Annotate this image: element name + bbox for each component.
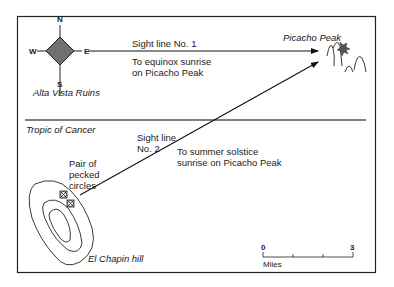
sight-line-1-label: Sight line No. 1 <box>132 38 196 49</box>
tropic-of-cancer-label: Tropic of Cancer <box>26 124 96 135</box>
scale-unit-label: Miles <box>263 259 282 270</box>
pecked-circle-2-icon <box>67 200 74 207</box>
pecked-circles-label-1: Pair of <box>69 158 96 169</box>
pecked-circles-label-3: circles <box>69 180 96 191</box>
alta-vista-ruins-label: Alta Vista Ruins <box>33 87 100 98</box>
map-diagram <box>0 0 394 287</box>
compass-north-label: N <box>57 14 63 25</box>
sight-line-1-desc-1: To equinox sunrise <box>132 56 211 67</box>
pecked-circle-1-icon <box>60 191 67 198</box>
sight-line-2-desc-2: sunrise on Picacho Peak <box>177 157 282 168</box>
scale-end-label: 3 <box>350 242 354 253</box>
pecked-circles-label-2: pecked <box>69 169 100 180</box>
sight-line-2-desc-1: To summer solstice <box>177 146 258 157</box>
compass-west-label: W <box>29 46 37 57</box>
sight-line-2-label-1: Sight line <box>137 132 176 143</box>
picacho-peak-label: Picacho Peak <box>283 32 341 43</box>
picacho-peak-mountains-icon <box>327 42 366 72</box>
sight-line-1-desc-2: on Picacho Peak <box>132 67 203 78</box>
map-frame <box>18 17 376 273</box>
compass-east-label: E <box>84 46 89 57</box>
sight-line-2-label-2: No. 2 <box>137 143 160 154</box>
scale-bar <box>263 252 353 257</box>
scale-start-label: 0 <box>261 242 265 253</box>
el-chapin-hill-label: El Chapin hill <box>88 253 143 264</box>
sight-line-2 <box>80 62 318 195</box>
